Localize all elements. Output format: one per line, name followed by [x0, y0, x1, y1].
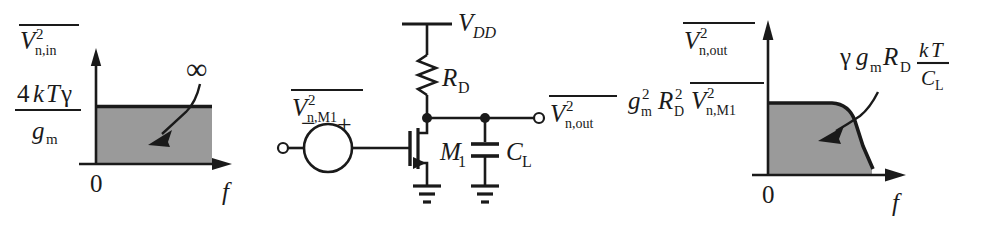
- level-numerator-4: 4: [17, 80, 30, 107]
- cl-label-symbol: C: [506, 138, 523, 165]
- source-plus-sign: +: [337, 110, 352, 139]
- output-noise-label: V 2 n,out: [549, 96, 617, 131]
- ground-symbol-cl: [471, 186, 499, 202]
- input-noise-y-axis-label: V 2 n,in: [19, 25, 79, 58]
- noise-source-label: V 2 n,M1: [291, 90, 363, 125]
- output-noise-level-label: g 2 m R 2 D V 2 n,M1: [628, 83, 764, 119]
- amplifier-schematic: V DD R D V 2 n,out M 1: [250, 0, 630, 225]
- y-label-subscript: n,in: [35, 43, 56, 58]
- y-label-superscript: 2: [700, 25, 708, 41]
- m1-label-subscript: 1: [458, 153, 466, 170]
- level-numerator-k: k: [33, 80, 45, 107]
- level-V-superscript: 2: [707, 85, 715, 101]
- level-g-superscript: 2: [642, 86, 650, 102]
- annotation-frac-T: T: [931, 38, 944, 62]
- noise-label-subscript: n,M1: [307, 110, 337, 125]
- input-noise-plot: V 2 n,in 4 k T γ g m 0 f ∞: [0, 0, 250, 225]
- input-terminal[interactable]: [278, 143, 288, 153]
- input-noise-x-axis-label: f: [222, 178, 232, 205]
- y-label-subscript: n,out: [699, 43, 728, 58]
- infinity-icon: ∞: [186, 52, 207, 85]
- level-numerator-gamma: γ: [60, 80, 72, 107]
- annotation-g-symbol: g: [856, 43, 869, 70]
- noise-label-superscript: 2: [308, 92, 316, 108]
- input-noise-x-axis-arrowhead: [212, 158, 232, 170]
- level-denominator-subscript: m: [46, 131, 58, 147]
- level-R-superscript: 2: [675, 86, 683, 102]
- input-noise-level-label: 4 k T γ g m: [15, 80, 81, 147]
- level-V-subscript: n,M1: [706, 103, 736, 118]
- input-noise-origin-label: 0: [90, 170, 103, 197]
- level-R-symbol: R: [657, 87, 673, 114]
- output-noise-origin-label: 0: [762, 181, 775, 208]
- input-noise-shaded-area: [96, 107, 212, 164]
- annotation-R-symbol: R: [882, 43, 898, 70]
- annotation-frac-C: C: [921, 66, 936, 90]
- annotation-R-subscript: D: [900, 59, 911, 75]
- ground-symbol-m1: [413, 186, 441, 202]
- output-noise-y-axis-arrowhead: [763, 20, 774, 40]
- y-label-superscript: 2: [36, 26, 44, 42]
- level-g-symbol: g: [628, 87, 641, 114]
- annotation-frac-k: k: [919, 38, 929, 62]
- annotation-gamma: γ: [839, 43, 851, 70]
- output-noise-shaded-area: [768, 104, 872, 175]
- resistor-rd-zigzag: [418, 55, 436, 95]
- rd-label-symbol: R: [441, 64, 457, 91]
- output-noise-x-axis-label: f: [892, 189, 902, 216]
- level-g-subscript: m: [641, 104, 652, 119]
- output-noise-plot: V 2 n,out g 2 m R 2 D V 2 n,M1 0 f γ g m…: [620, 0, 984, 225]
- rd-label-subscript: D: [458, 79, 470, 96]
- output-terminal[interactable]: [534, 113, 544, 123]
- output-label-subscript: n,out: [565, 116, 594, 131]
- output-noise-y-axis-label: V 2 n,out: [683, 23, 755, 58]
- output-label-superscript: 2: [566, 98, 574, 114]
- cl-label-subscript: L: [522, 153, 532, 170]
- annotation-frac-C-subscript: L: [935, 78, 944, 93]
- level-numerator-T: T: [46, 80, 62, 107]
- level-denominator-g: g: [32, 117, 45, 144]
- annotation-g-subscript: m: [870, 59, 882, 75]
- output-noise-x-axis-arrowhead: [885, 169, 906, 182]
- figure-root: V 2 n,in 4 k T γ g m 0 f ∞ V D: [0, 0, 984, 225]
- vdd-label-subscript: DD: [472, 24, 497, 41]
- level-R-subscript: D: [674, 104, 684, 119]
- input-noise-y-axis-arrowhead: [91, 48, 101, 66]
